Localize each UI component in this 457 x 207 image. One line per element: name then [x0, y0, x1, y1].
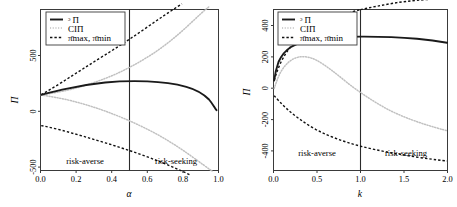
y-tick-label: 500	[29, 49, 38, 62]
x-tick-label: 0.4	[106, 175, 117, 184]
panel-alpha: 500 0 -500 Π 0.0 0.2 0.4 0.6 0.8 1.0 α	[0, 0, 229, 207]
x-axis-ticks-k: 0.0 0.5 1.0 1.5 2.0	[268, 171, 452, 185]
region-annotations-alpha: risk-averse risk-seeking	[66, 156, 198, 166]
curve-pi-min	[41, 126, 190, 175]
legend-alpha: ᵓ Π CIΠ π̄max, π̄min	[46, 12, 125, 45]
x-tick-label: 1.5	[398, 175, 408, 184]
y-axis-title: Π	[241, 87, 252, 96]
y-tick-label: 200	[261, 51, 270, 64]
x-tick-label: 0.2	[71, 175, 81, 184]
legend-label-pi: π̄max, π̄min	[68, 33, 112, 43]
x-tick-label: 0.5	[311, 175, 321, 184]
y-axis-ticks-alpha: 500 0 -500	[29, 49, 41, 175]
x-tick-label: 0.8	[178, 175, 188, 184]
chart-svg-k: 400 200 0 -200 -400 Π 0.0 0.5 1.0 1.5 2.…	[229, 0, 457, 207]
panel-k: 400 200 0 -200 -400 Π 0.0 0.5 1.0 1.5 2.…	[229, 0, 457, 207]
curve-pi-max-b	[360, 0, 439, 10]
region-label-risk-seeking: risk-seeking	[155, 156, 198, 166]
region-label-risk-averse: risk-averse	[66, 156, 104, 166]
region-label-risk-averse: risk-averse	[298, 148, 336, 158]
x-axis-ticks-alpha: 0.0 0.2 0.4 0.6 0.8 1.0	[35, 171, 223, 185]
x-tick-label: 1.0	[213, 175, 223, 184]
x-axis-title: α	[126, 188, 132, 199]
y-tick-label: -400	[261, 143, 270, 158]
y-tick-label: 0	[29, 109, 38, 113]
y-tick-label: -200	[261, 112, 270, 127]
x-tick-label: 0.0	[35, 175, 45, 184]
region-annotations-k: risk-averse risk-seeking	[298, 148, 428, 158]
legend-k: ᵓ Π CIΠ π̄max, π̄min	[278, 12, 357, 45]
x-axis-title: k	[357, 188, 362, 199]
curve-expected-profit	[41, 81, 216, 110]
x-tick-label: 2.0	[442, 175, 452, 184]
y-tick-label: -500	[29, 159, 38, 174]
x-tick-label: 0.0	[268, 175, 278, 184]
region-label-risk-seeking: risk-seeking	[384, 148, 427, 158]
y-tick-label: 0	[261, 86, 270, 90]
legend-label-ci: CIΠ	[68, 24, 84, 34]
x-tick-label: 0.6	[142, 175, 152, 184]
figure-two-panel-risk-profit: 500 0 -500 Π 0.0 0.2 0.4 0.6 0.8 1.0 α	[0, 0, 457, 207]
y-axis-ticks-k: 400 200 0 -200 -400	[261, 19, 273, 158]
legend-label-ci: CIΠ	[300, 24, 316, 34]
chart-svg-alpha: 500 0 -500 Π 0.0 0.2 0.4 0.6 0.8 1.0 α	[0, 0, 229, 207]
y-axis-title: Π	[9, 95, 20, 104]
legend-label-pi: π̄max, π̄min	[300, 33, 344, 43]
y-tick-label: 400	[261, 19, 270, 32]
x-tick-label: 1.0	[355, 175, 365, 184]
